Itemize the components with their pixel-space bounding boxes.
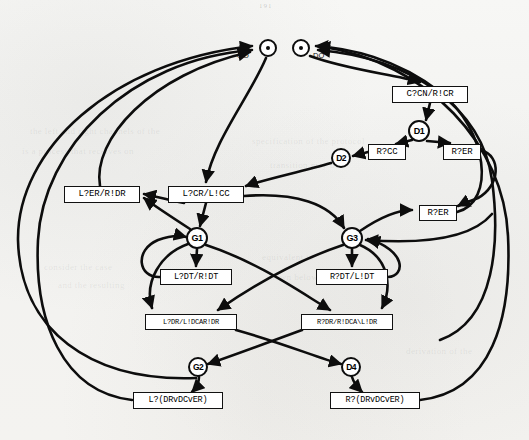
edge-ler-to-go — [99, 52, 250, 186]
transition-box-ldt[interactable]: L?DT/R!DT — [160, 269, 232, 285]
entry-port-go-label: GO — [237, 51, 249, 60]
transition-box-rdrdcer[interactable]: R?(DRvDCvER) — [330, 392, 420, 409]
transition-box-rcc[interactable]: R?CC — [368, 144, 406, 160]
edge-d1-to-rer-top — [427, 141, 450, 143]
state-node-g1[interactable]: G1 — [186, 227, 208, 249]
state-node-d4[interactable]: D4 — [341, 357, 361, 377]
edge-go-to-lcr — [206, 58, 266, 182]
entry-port-do[interactable] — [292, 39, 310, 57]
transition-box-ler-rdr[interactable]: L?ER/R!DR — [64, 186, 140, 203]
transition-box-rer-mid[interactable]: R?ER — [419, 205, 457, 221]
state-node-d1[interactable]: D1 — [408, 120, 430, 142]
diagram-page: 191 the left and right channels of the i… — [0, 0, 529, 440]
transition-box-lcr-lcc[interactable]: L?CR/L!CC — [168, 186, 244, 203]
state-node-g2[interactable]: G2 — [188, 357, 208, 377]
state-node-d2[interactable]: D2 — [331, 148, 351, 168]
transition-box-ldr[interactable]: L?DR/L!DCAR!DR — [145, 314, 237, 330]
transition-box-rdr[interactable]: R?DR/R!DCA\L!DR — [301, 314, 393, 330]
state-node-g3[interactable]: G3 — [341, 227, 363, 249]
transition-box-ldrdcer[interactable]: L?(DRvDCvER) — [133, 392, 223, 409]
edge-g1-to-ldt — [196, 249, 197, 266]
edge-lcr-to-g3 — [244, 195, 344, 228]
entry-port-go[interactable] — [259, 39, 277, 57]
transition-box-rdt[interactable]: R?DT/L!DT — [316, 269, 388, 285]
transition-box-rer-top[interactable]: R?ER — [443, 144, 481, 160]
edge-d4-to-rdrdcer — [352, 377, 362, 392]
edge-lcr-to-g1 — [200, 203, 206, 226]
edge-g3-to-rer-mid — [360, 210, 412, 231]
edge-d2-to-lcr — [246, 163, 331, 186]
edge-ccn-to-d1 — [426, 103, 430, 120]
transition-box-ccn[interactable]: C?CN/R!CR — [392, 86, 468, 103]
entry-port-do-label: DO — [313, 51, 325, 60]
edge-rcc-to-d2 — [353, 152, 368, 156]
